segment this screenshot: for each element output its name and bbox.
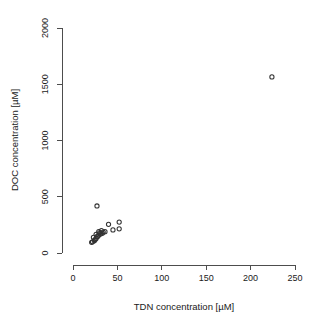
data-point (117, 220, 121, 224)
x-tick-label: 200 (243, 273, 258, 283)
y-tick-label: 1500 (40, 74, 50, 94)
data-points-layer (90, 75, 274, 245)
x-tick-label: 150 (199, 273, 214, 283)
x-tick-label: 250 (287, 273, 302, 283)
y-axis-title: DOC concentration [µM] (9, 89, 20, 191)
data-point (95, 204, 99, 208)
y-tick-label: 500 (40, 189, 50, 204)
y-axis: 0500100015002000 DOC concentration [µM] (9, 18, 62, 256)
x-tick-label: 50 (112, 273, 122, 283)
y-axis-ticks: 0500100015002000 (40, 18, 62, 256)
x-axis-ticks: 050100150200250 (70, 265, 302, 283)
x-axis-title: TDN concentration [µM] (134, 301, 235, 312)
y-tick-label: 0 (40, 250, 50, 255)
data-point (106, 222, 110, 226)
data-point (270, 75, 274, 79)
data-point (117, 227, 121, 231)
x-tick-label: 0 (70, 273, 75, 283)
x-axis: 050100150200250 TDN concentration [µM] (70, 265, 302, 312)
data-point (111, 228, 115, 232)
plot-canvas: 0500100015002000 DOC concentration [µM] … (0, 0, 320, 327)
y-tick-label: 1000 (40, 130, 50, 150)
x-tick-label: 100 (154, 273, 169, 283)
scatter-plot-figure: 0500100015002000 DOC concentration [µM] … (0, 0, 320, 327)
y-tick-label: 2000 (40, 18, 50, 38)
